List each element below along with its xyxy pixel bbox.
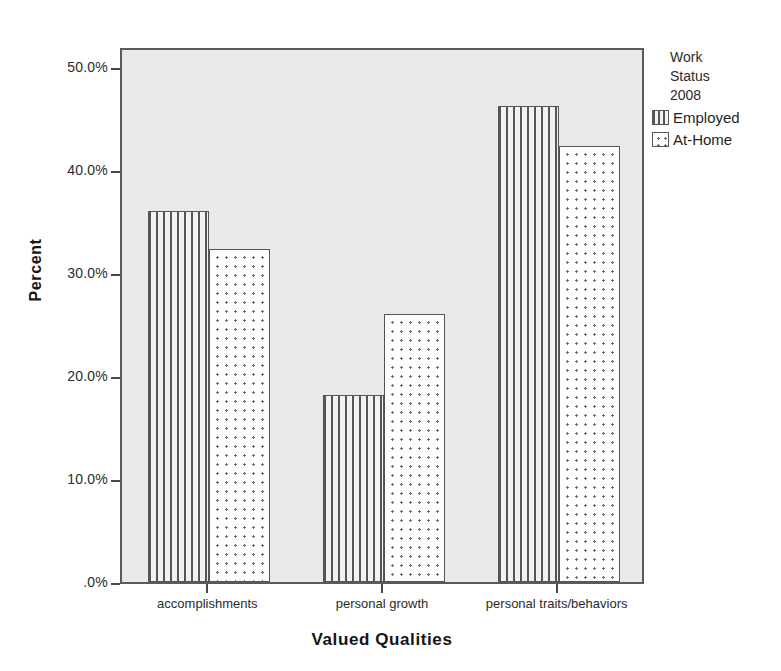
bar-employed[interactable] — [498, 106, 559, 582]
legend-item-label: Employed — [673, 109, 740, 126]
y-axis: .0%10.0%20.0%30.0%40.0%50.0% — [0, 0, 120, 671]
dots-swatch — [652, 132, 669, 147]
legend-entries: EmployedAt-Home — [652, 108, 781, 149]
y-axis-title: Percent — [27, 239, 45, 302]
legend-item-at-home[interactable]: At-Home — [652, 130, 781, 149]
legend-item-employed[interactable]: Employed — [652, 108, 781, 127]
x-axis-title: Valued Qualities — [120, 630, 644, 650]
bar-athome[interactable] — [559, 146, 620, 582]
y-tick-label: .0% — [83, 574, 108, 590]
y-tick-label: 20.0% — [67, 368, 108, 384]
x-axis: accomplishmentspersonal growthpersonal t… — [120, 584, 644, 671]
x-tick-mark — [556, 584, 558, 593]
bar-group — [148, 50, 270, 582]
bar-employed[interactable] — [323, 395, 384, 582]
y-tick-label: 40.0% — [67, 162, 108, 178]
y-tick-mark — [111, 583, 120, 585]
y-tick-label: 50.0% — [67, 59, 108, 75]
plot-area — [120, 48, 644, 584]
y-tick-mark — [111, 377, 120, 379]
x-tick-mark — [206, 584, 208, 593]
y-tick-mark — [111, 274, 120, 276]
legend-item-label: At-Home — [673, 131, 732, 148]
y-tick-mark — [111, 68, 120, 70]
bar-chart-figure: .0%10.0%20.0%30.0%40.0%50.0% Percent acc… — [0, 0, 781, 671]
y-tick-label: 30.0% — [67, 265, 108, 281]
y-tick-mark — [111, 480, 120, 482]
vertical-lines-swatch — [652, 110, 669, 125]
bar-athome[interactable] — [209, 249, 270, 582]
x-tick-label: accomplishments — [157, 596, 257, 611]
bar-group — [323, 50, 445, 582]
x-tick-mark — [381, 584, 383, 593]
y-tick-mark — [111, 171, 120, 173]
bar-athome[interactable] — [384, 314, 445, 582]
x-tick-label: personal traits/behaviors — [486, 596, 628, 611]
bars-layer — [122, 50, 642, 582]
bar-group — [498, 50, 620, 582]
legend: Work Status 2008 EmployedAt-Home — [652, 48, 781, 149]
x-tick-label: personal growth — [336, 596, 429, 611]
y-tick-label: 10.0% — [67, 471, 108, 487]
bar-employed[interactable] — [148, 211, 209, 582]
legend-title: Work Status 2008 — [652, 48, 781, 105]
